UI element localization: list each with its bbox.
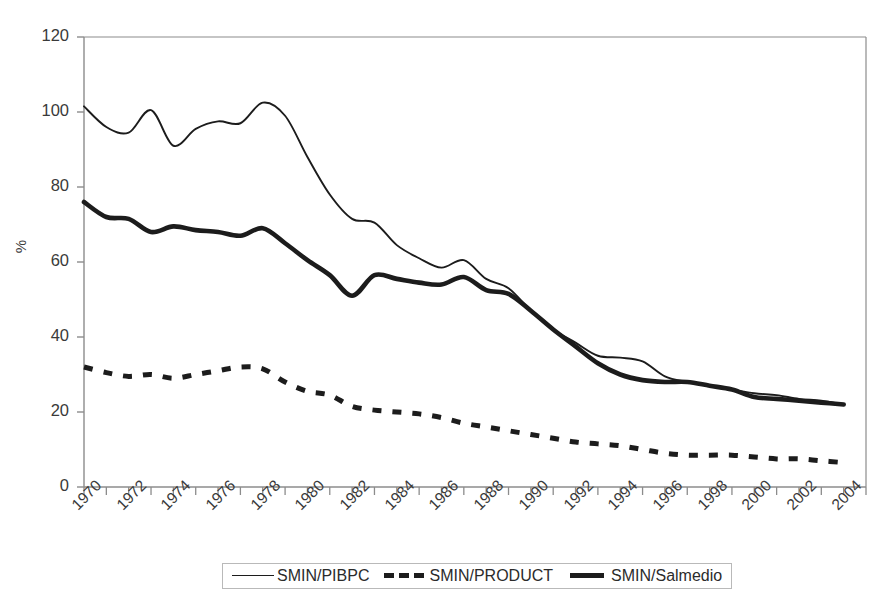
legend-item-3[interactable]: SMIN/Salmedio (566, 567, 722, 585)
y-tick-label: 100 (23, 101, 69, 120)
legend-item-label: SMIN/Salmedio (611, 567, 722, 585)
y-tick-label: 20 (23, 401, 69, 420)
y-tick-label: 40 (23, 326, 69, 345)
legend-swatch-icon (566, 570, 608, 582)
y-tick-label: 60 (23, 251, 69, 270)
legend-item-1[interactable]: SMIN/PIBPC (232, 567, 369, 585)
plot-area (0, 0, 894, 615)
data-series-group (84, 102, 844, 462)
legend-swatch-icon (232, 570, 274, 582)
y-tick-label: 80 (23, 176, 69, 195)
chart-legend: SMIN/PIBPCSMIN/PRODUCTSMIN/Salmedio (222, 563, 732, 589)
y-tick-label: 120 (23, 26, 69, 45)
legend-item-2[interactable]: SMIN/PRODUCT (382, 567, 553, 585)
chart-container: % 020406080100120 1970197219741976197819… (0, 0, 894, 615)
legend-item-label: SMIN/PIBPC (277, 567, 369, 585)
legend-item-label: SMIN/PRODUCT (429, 567, 553, 585)
y-tick-label: 0 (23, 476, 69, 495)
series-line-3 (84, 202, 844, 405)
series-line-1 (84, 102, 844, 404)
legend-swatch-icon (382, 570, 426, 582)
series-line-2 (84, 367, 844, 463)
